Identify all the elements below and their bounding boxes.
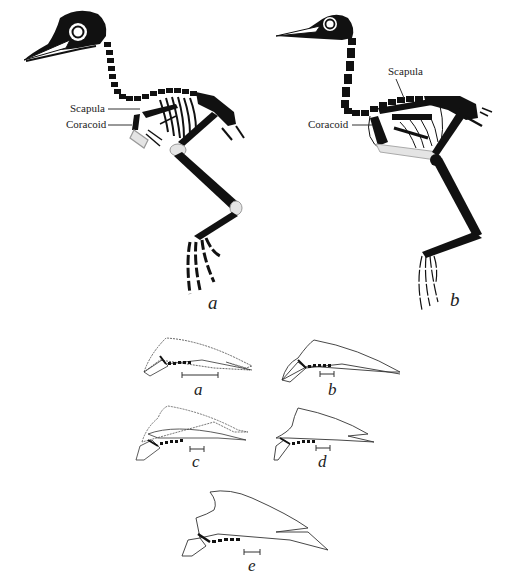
shoulder-girdle-e: e <box>178 484 338 577</box>
caption-girdle-e: e <box>248 557 256 574</box>
girdle-b-drawing <box>278 330 402 400</box>
skeleton-figure-a: Scapula Coracoid a <box>0 0 260 310</box>
girdle-e-drawing <box>178 484 338 577</box>
leader-line-coracoid-a <box>0 0 260 310</box>
shoulder-girdle-a: a <box>140 330 260 400</box>
caption-girdle-d: d <box>318 453 327 470</box>
girdle-d-drawing <box>268 398 392 470</box>
shoulder-girdle-b: b <box>278 330 402 400</box>
caption-girdle-c: c <box>192 453 200 470</box>
skeleton-figure-b: Scapula Coracoid b <box>260 0 518 320</box>
shoulder-girdle-c: c <box>134 398 258 470</box>
caption-b: b <box>450 290 460 309</box>
caption-girdle-a: a <box>194 381 203 398</box>
caption-a: a <box>208 293 218 312</box>
caption-girdle-b: b <box>328 381 337 398</box>
leader-line-coracoid-b <box>260 0 518 320</box>
shoulder-girdle-d: d <box>268 398 392 470</box>
